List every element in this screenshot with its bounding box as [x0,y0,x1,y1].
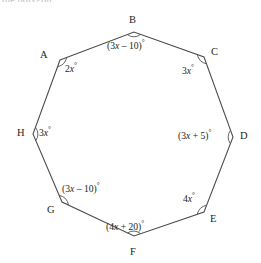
vertex-label-f: F [130,247,136,258]
vertex-label-h: H [17,128,25,139]
angle-arc-b [127,34,141,36]
vertex-label-b: B [129,15,136,26]
angle-arc-h [35,127,37,140]
vertex-label-d: D [240,131,248,142]
angle-label-h: 3x° [39,128,51,138]
angle-label-d: (3x + 5)° [178,131,211,141]
angle-arc-d [228,130,230,143]
vertex-label-e: E [210,214,216,225]
vertex-label-a: A [40,50,48,61]
vertex-label-c: C [211,47,218,58]
angle-label-f: (4x + 20)° [106,222,144,232]
angle-label-b: (3x – 10)° [107,41,145,51]
angle-label-e: 4x° [183,194,195,204]
angle-arc-g [59,195,68,205]
figure-canvas: the polygon. A2x°B(3x – 10)°C3x°D(3x + 5… [0,0,261,263]
vertex-label-g: G [47,205,55,216]
angle-label-c: 3x° [182,66,194,76]
angle-label-a: 2x° [65,64,77,74]
angle-label-g: (3x – 10)° [62,184,100,194]
